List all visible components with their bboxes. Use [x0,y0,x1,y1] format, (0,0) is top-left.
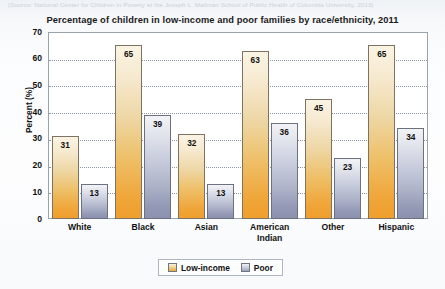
x-axis-tick-labels: WhiteBlackAsianAmericanIndianOtherHispan… [48,222,428,250]
chart-title: Percentage of children in low-income and… [0,15,445,25]
bar-value-label: 39 [145,119,170,129]
bar-value-label: 65 [369,49,394,59]
source-credit-line: (Source: National Center for Children in… [8,1,437,9]
bar-group-other: 4523 [305,32,361,219]
legend-swatch-poor-icon [241,263,250,272]
y-tick-label-60: 60 [16,53,42,63]
bar-value-label: 23 [335,162,360,172]
bar-asian-poor: 13 [207,184,234,219]
x-label-line: Hispanic [353,222,439,233]
bar-group-hispanic: 6534 [368,32,424,219]
bar-value-label: 36 [272,127,297,137]
bar-white-poor: 13 [81,184,108,219]
bar-american-indian-low-income: 63 [242,51,269,219]
legend-swatch-low-icon [168,263,177,272]
x-label-hispanic: Hispanic [353,222,439,233]
y-tick-label-30: 30 [16,133,42,143]
bar-other-poor: 23 [334,158,361,219]
bar-asian-low-income: 32 [178,134,205,219]
y-tick-label-50: 50 [16,80,42,90]
bar-group-black: 6539 [115,32,171,219]
bar-value-label: 13 [208,188,233,198]
bar-white-low-income: 31 [52,136,79,219]
bar-value-label: 63 [243,55,268,65]
bars-layer: 311365393213633645236534 [48,32,428,219]
legend-label: Low-income [181,263,230,273]
chart-legend: Low-incomePoor [158,259,283,276]
bar-group-asian: 3213 [178,32,234,219]
bar-value-label: 32 [179,138,204,148]
bar-hispanic-low-income: 65 [368,45,395,219]
bar-american-indian-poor: 36 [271,123,298,219]
bar-value-label: 34 [398,132,423,142]
bar-group-american-indian: 6336 [242,32,298,219]
bar-value-label: 65 [116,49,141,59]
bar-other-low-income: 45 [305,99,332,219]
legend-item-poor: Poor [241,263,273,273]
bar-value-label: 45 [306,103,331,113]
x-label-line: Indian [227,233,313,244]
bar-value-label: 13 [82,188,107,198]
legend-label: Poor [254,263,273,273]
y-tick-label-20: 20 [16,160,42,170]
y-tick-label-40: 40 [16,107,42,117]
bar-black-poor: 39 [144,115,171,219]
bar-group-white: 3113 [52,32,108,219]
bar-hispanic-poor: 34 [397,128,424,219]
y-tick-label-10: 10 [16,187,42,197]
legend-item-low: Low-income [168,263,230,273]
bar-value-label: 31 [53,140,78,150]
y-tick-label-70: 70 [16,27,42,37]
bar-black-low-income: 65 [115,45,142,219]
